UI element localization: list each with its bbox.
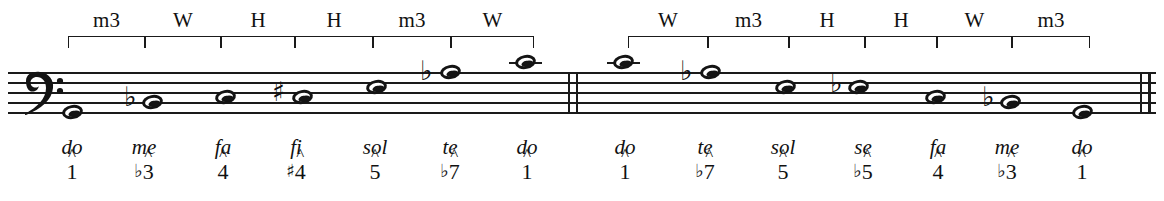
solfege-group: me ♭^3 [114, 136, 174, 185]
music-staff: ♭ ♯ ♭ ♭ ♭ ♭ [0, 52, 1164, 136]
solfege-group: sol ^5 [748, 136, 818, 185]
solfege-group: sol ^5 [340, 136, 410, 185]
scale-degree: ^4 [908, 158, 968, 185]
degree-accidental: ♭ [695, 160, 704, 181]
solfege-group: fi ♯^4 [266, 136, 326, 185]
scale-degree: ^1 [595, 158, 655, 185]
interval-bracket [373, 36, 451, 48]
caret-icon: ^ [370, 146, 381, 163]
scale-degree: ♭^3 [977, 158, 1037, 185]
solfege-group: me ♭^3 [977, 136, 1037, 185]
solfege-group: te ♭^7 [675, 136, 735, 185]
degree-accidental: ♭ [997, 160, 1006, 181]
sharp-accidental-fi: ♯ [272, 78, 285, 105]
solfege-label-row: do ^1 me ♭^3 fa ^4 fi ♯^4 sol ^5 te ♭^7 … [0, 136, 1164, 201]
caret-icon: ^ [862, 146, 873, 163]
interval-label: W [628, 8, 708, 33]
interval-bracket [451, 36, 534, 48]
caret-icon: ^ [218, 146, 229, 163]
notehead-do-1-low [1071, 103, 1094, 121]
interval-label: H [295, 8, 373, 33]
scale-degree: ♭^3 [114, 158, 174, 185]
scale-degree: ♭^7 [675, 158, 735, 185]
interval-label: H [789, 8, 865, 33]
interval-bracket [221, 36, 295, 48]
solfege-group: se ♭^5 [833, 136, 893, 185]
caret-icon: ^ [295, 146, 306, 163]
interval-bracket [708, 36, 789, 48]
interval-label: H [221, 8, 295, 33]
caret-icon: ^ [778, 146, 789, 163]
degree-accidental: ♭ [440, 160, 449, 181]
interval-bracket [68, 36, 145, 48]
caret-icon: ^ [143, 146, 154, 163]
caret-icon: ^ [933, 146, 944, 163]
interval-label: m3 [68, 8, 145, 33]
scale-degree: ^4 [193, 158, 253, 185]
scale-degree: ♭^7 [420, 158, 480, 185]
notehead-do-1-upper-2 [612, 53, 635, 71]
interval-bracket-row: m3 W H H m3 W W m3 H H W m3 [0, 0, 1164, 52]
interval-bracket [937, 36, 1012, 48]
caret-icon: ^ [1006, 146, 1017, 163]
scale-degree: ♭^5 [833, 158, 893, 185]
scale-degree: ^1 [497, 158, 557, 185]
notehead-me-b3 [141, 93, 164, 111]
interval-label: W [145, 8, 221, 33]
degree-accidental: ♯ [286, 160, 295, 181]
scale-degree: ♯^4 [266, 158, 326, 185]
music-figure: m3 W H H m3 W W m3 H H W m3 [0, 0, 1164, 201]
notehead-me-b3-2 [999, 93, 1022, 111]
caret-icon: ^ [67, 146, 78, 163]
caret-icon: ^ [1077, 146, 1088, 163]
interval-label: m3 [708, 8, 789, 33]
degree-accidental: ♭ [134, 160, 143, 181]
caret-icon: ^ [704, 146, 715, 163]
flat-accidental-te: ♭ [420, 57, 433, 84]
flat-accidental-te-2: ♭ [680, 57, 693, 84]
solfege-group: fa ^4 [908, 136, 968, 185]
degree-accidental: ♭ [853, 160, 862, 181]
solfege-group: do ^1 [595, 136, 655, 185]
scale-degree: ^5 [748, 158, 818, 185]
notehead-te-b7-2 [699, 63, 722, 81]
interval-bracket [295, 36, 373, 48]
solfege-group: do ^1 [42, 136, 102, 185]
scale-degree: ^5 [340, 158, 410, 185]
final-barline [1140, 72, 1142, 114]
interval-bracket [1012, 36, 1090, 48]
barline [568, 72, 570, 114]
interval-bracket [789, 36, 865, 48]
interval-label: H [865, 8, 937, 33]
notehead-te-b7 [439, 63, 462, 81]
interval-bracket [145, 36, 221, 48]
final-barline [1148, 72, 1151, 114]
caret-icon: ^ [620, 146, 631, 163]
interval-label: m3 [1012, 8, 1090, 33]
solfege-group: do ^1 [1052, 136, 1112, 185]
flat-accidental-me: ♭ [124, 83, 137, 110]
solfege-group: te ♭^7 [420, 136, 480, 185]
barline [576, 72, 578, 114]
staff-line [8, 112, 1156, 114]
interval-label: W [937, 8, 1012, 33]
solfege-group: fa ^4 [193, 136, 253, 185]
caret-icon: ^ [522, 146, 533, 163]
flat-accidental-me-2: ♭ [982, 83, 995, 110]
solfege-group: do ^1 [497, 136, 557, 185]
scale-degree: ^1 [1052, 158, 1112, 185]
staff-line [8, 72, 1156, 74]
interval-label: m3 [373, 8, 451, 33]
interval-bracket [865, 36, 937, 48]
notehead-do-1-upper [514, 53, 537, 71]
scale-degree: ^1 [42, 158, 102, 185]
flat-accidental-se: ♭ [830, 69, 843, 96]
interval-label: W [451, 8, 534, 33]
interval-bracket [628, 36, 708, 48]
caret-icon: ^ [449, 146, 460, 163]
